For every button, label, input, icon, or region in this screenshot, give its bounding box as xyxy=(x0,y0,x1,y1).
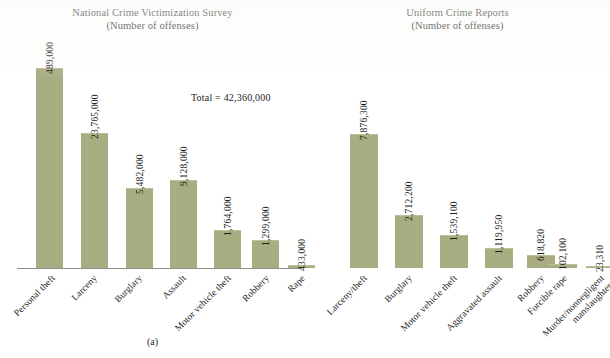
panel-b-plot-area: 7,876,3002,712,2001,539,1001,119,950618,… xyxy=(305,0,610,358)
panel-a-caption: (a) xyxy=(0,336,305,347)
panel-a-baseline-axis xyxy=(17,268,302,269)
bar-value-label: 102,100 xyxy=(558,238,568,270)
bar-value-label: 5,482,000 xyxy=(135,154,145,194)
bar-value-label: 1,299,000 xyxy=(261,206,271,246)
chart-panel-ucr: Uniform Crime Reports (Number of offense… xyxy=(305,0,610,358)
crime-statistics-figure: National Crime Victimization Survey (Num… xyxy=(0,0,610,358)
bar xyxy=(350,134,378,268)
bar-value-label: 7,876,300 xyxy=(359,100,369,140)
bar xyxy=(36,68,63,268)
bar-value-label: 9,128,000 xyxy=(179,146,189,186)
bar xyxy=(126,188,153,268)
bar-value-label: 2,712,200 xyxy=(404,181,414,221)
bar-value-label: 1,539,100 xyxy=(449,201,459,241)
bar-value-label: 23,310 xyxy=(595,245,605,272)
bar-value-label: 1,764,000 xyxy=(223,196,233,236)
bar-value-label: 23,765,000 xyxy=(90,94,100,139)
bar-value-label: 489,000 xyxy=(45,42,55,74)
panel-a-total-annotation: Total = 42,360,000 xyxy=(191,92,271,103)
bar-value-label: 1,119,950 xyxy=(494,215,504,254)
bar xyxy=(81,133,108,268)
bar xyxy=(170,180,197,268)
chart-panel-ncvs: National Crime Victimization Survey (Num… xyxy=(0,0,305,358)
bar-value-label: 618,820 xyxy=(536,229,546,261)
bar xyxy=(395,215,423,268)
panel-a-plot-area: 489,00023,765,0005,482,0009,128,0001,764… xyxy=(0,0,305,358)
